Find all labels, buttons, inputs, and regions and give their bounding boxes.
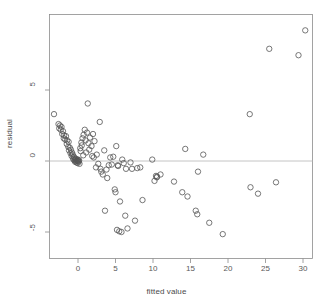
data-point <box>132 218 137 223</box>
data-point <box>120 157 125 162</box>
data-point <box>123 166 128 171</box>
data-point <box>140 197 145 202</box>
y-tick-label-1: 0 <box>28 153 37 169</box>
data-point <box>128 160 133 165</box>
residual-plot-figure: fitted value residual 051015202530 50-5 <box>0 0 333 308</box>
data-point <box>248 185 253 190</box>
data-point <box>296 53 301 58</box>
data-point <box>185 194 190 199</box>
data-point <box>105 175 110 180</box>
data-point <box>125 226 130 231</box>
data-point <box>183 146 188 151</box>
y-tick-label-2: -5 <box>28 224 37 240</box>
data-point <box>195 212 200 217</box>
data-point <box>201 152 206 157</box>
x-tick-label-5: 25 <box>261 264 270 273</box>
data-point <box>123 213 128 218</box>
data-point <box>171 179 176 184</box>
data-point <box>150 157 155 162</box>
x-tick-label-1: 5 <box>113 264 118 273</box>
x-tick-label-2: 10 <box>148 264 157 273</box>
x-tick-label-0: 0 <box>76 264 81 273</box>
data-point <box>180 190 185 195</box>
data-point <box>97 119 102 124</box>
data-point <box>207 220 212 225</box>
data-point <box>255 191 260 196</box>
data-point <box>303 28 308 33</box>
data-point <box>102 208 107 213</box>
data-point <box>114 143 119 148</box>
x-tick-label-4: 20 <box>223 264 232 273</box>
data-point <box>273 180 278 185</box>
y-tick-label-0: 5 <box>28 82 37 98</box>
data-point <box>193 208 198 213</box>
plot-border <box>50 15 313 259</box>
data-point <box>247 111 252 116</box>
data-point <box>129 166 134 171</box>
data-point <box>90 131 95 136</box>
x-tick-label-3: 15 <box>186 264 195 273</box>
data-point <box>117 199 122 204</box>
data-point <box>51 111 56 116</box>
data-point <box>195 169 200 174</box>
data-point <box>92 138 97 143</box>
data-point <box>220 231 225 236</box>
y-axis-title: residual <box>5 104 14 164</box>
x-axis-title: fitted value <box>0 287 333 296</box>
data-point <box>267 46 272 51</box>
x-tick-label-6: 30 <box>298 264 307 273</box>
scatter-plot-canvas <box>0 0 333 308</box>
data-point <box>85 101 90 106</box>
data-point <box>102 148 107 153</box>
data-points-group <box>51 28 308 237</box>
